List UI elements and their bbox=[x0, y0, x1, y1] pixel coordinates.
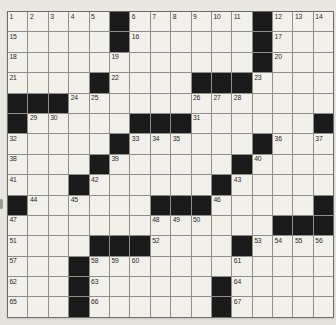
grid-cell[interactable]: 18 bbox=[8, 53, 27, 72]
grid-cell[interactable] bbox=[28, 216, 47, 235]
grid-cell[interactable]: 31 bbox=[192, 114, 211, 133]
grid-cell[interactable] bbox=[130, 73, 149, 92]
grid-cell[interactable]: 43 bbox=[232, 175, 251, 194]
grid-cell[interactable]: 55 bbox=[293, 236, 312, 255]
grid-cell[interactable]: 65 bbox=[8, 297, 27, 316]
grid-cell[interactable] bbox=[192, 175, 211, 194]
grid-cell[interactable] bbox=[273, 114, 292, 133]
grid-cell[interactable]: 4 bbox=[69, 12, 88, 31]
grid-cell[interactable] bbox=[253, 277, 272, 296]
grid-cell[interactable] bbox=[151, 94, 170, 113]
grid-cell[interactable]: 14 bbox=[314, 12, 333, 31]
grid-cell[interactable]: 22 bbox=[110, 73, 129, 92]
grid-cell[interactable] bbox=[49, 134, 68, 153]
grid-cell[interactable] bbox=[192, 297, 211, 316]
grid-cell[interactable] bbox=[273, 196, 292, 215]
grid-cell[interactable] bbox=[49, 216, 68, 235]
grid-cell[interactable]: 5 bbox=[90, 12, 109, 31]
grid-cell[interactable]: 24 bbox=[69, 94, 88, 113]
grid-cell[interactable] bbox=[69, 236, 88, 255]
grid-cell[interactable] bbox=[151, 155, 170, 174]
grid-cell[interactable]: 20 bbox=[273, 53, 292, 72]
grid-cell[interactable]: 33 bbox=[130, 134, 149, 153]
grid-cell[interactable] bbox=[28, 297, 47, 316]
grid-cell[interactable] bbox=[192, 32, 211, 51]
grid-cell[interactable]: 21 bbox=[8, 73, 27, 92]
grid-cell[interactable] bbox=[171, 297, 190, 316]
grid-cell[interactable] bbox=[171, 236, 190, 255]
grid-cell[interactable] bbox=[314, 155, 333, 174]
grid-cell[interactable] bbox=[110, 216, 129, 235]
grid-cell[interactable] bbox=[90, 196, 109, 215]
grid-cell[interactable] bbox=[253, 297, 272, 316]
grid-cell[interactable] bbox=[151, 297, 170, 316]
grid-cell[interactable] bbox=[151, 73, 170, 92]
grid-cell[interactable] bbox=[69, 155, 88, 174]
grid-cell[interactable]: 17 bbox=[273, 32, 292, 51]
grid-cell[interactable] bbox=[314, 94, 333, 113]
grid-cell[interactable] bbox=[110, 175, 129, 194]
grid-cell[interactable]: 61 bbox=[232, 257, 251, 276]
grid-cell[interactable]: 41 bbox=[8, 175, 27, 194]
grid-cell[interactable]: 64 bbox=[232, 277, 251, 296]
grid-cell[interactable] bbox=[314, 73, 333, 92]
grid-cell[interactable] bbox=[273, 155, 292, 174]
grid-cell[interactable] bbox=[192, 134, 211, 153]
grid-cell[interactable] bbox=[130, 94, 149, 113]
grid-cell[interactable] bbox=[232, 114, 251, 133]
grid-cell[interactable] bbox=[151, 277, 170, 296]
grid-cell[interactable] bbox=[49, 155, 68, 174]
grid-cell[interactable]: 19 bbox=[110, 53, 129, 72]
grid-cell[interactable] bbox=[130, 175, 149, 194]
grid-cell[interactable] bbox=[192, 257, 211, 276]
grid-cell[interactable]: 62 bbox=[8, 277, 27, 296]
grid-cell[interactable] bbox=[110, 196, 129, 215]
grid-cell[interactable]: 11 bbox=[232, 12, 251, 31]
grid-cell[interactable] bbox=[314, 175, 333, 194]
grid-cell[interactable]: 60 bbox=[130, 257, 149, 276]
grid-cell[interactable]: 36 bbox=[273, 134, 292, 153]
grid-cell[interactable]: 2 bbox=[28, 12, 47, 31]
grid-cell[interactable]: 6 bbox=[130, 12, 149, 31]
grid-cell[interactable] bbox=[253, 196, 272, 215]
grid-cell[interactable]: 45 bbox=[69, 196, 88, 215]
grid-cell[interactable]: 50 bbox=[192, 216, 211, 235]
grid-cell[interactable] bbox=[293, 175, 312, 194]
grid-cell[interactable] bbox=[212, 236, 231, 255]
grid-cell[interactable]: 39 bbox=[110, 155, 129, 174]
grid-cell[interactable] bbox=[314, 257, 333, 276]
grid-cell[interactable]: 63 bbox=[90, 277, 109, 296]
grid-cell[interactable] bbox=[90, 32, 109, 51]
grid-cell[interactable] bbox=[293, 134, 312, 153]
grid-cell[interactable] bbox=[232, 134, 251, 153]
grid-cell[interactable] bbox=[28, 257, 47, 276]
grid-cell[interactable] bbox=[130, 53, 149, 72]
grid-cell[interactable] bbox=[151, 175, 170, 194]
grid-cell[interactable] bbox=[130, 277, 149, 296]
grid-cell[interactable] bbox=[273, 175, 292, 194]
grid-cell[interactable] bbox=[273, 73, 292, 92]
grid-cell[interactable] bbox=[293, 155, 312, 174]
grid-cell[interactable]: 34 bbox=[151, 134, 170, 153]
grid-cell[interactable] bbox=[192, 236, 211, 255]
grid-cell[interactable]: 53 bbox=[253, 236, 272, 255]
grid-cell[interactable] bbox=[232, 53, 251, 72]
grid-cell[interactable] bbox=[171, 53, 190, 72]
grid-cell[interactable] bbox=[69, 134, 88, 153]
grid-cell[interactable]: 12 bbox=[273, 12, 292, 31]
grid-cell[interactable] bbox=[110, 277, 129, 296]
grid-cell[interactable] bbox=[293, 257, 312, 276]
grid-cell[interactable]: 32 bbox=[8, 134, 27, 153]
grid-cell[interactable]: 54 bbox=[273, 236, 292, 255]
grid-cell[interactable] bbox=[90, 114, 109, 133]
grid-cell[interactable] bbox=[171, 73, 190, 92]
grid-cell[interactable]: 9 bbox=[192, 12, 211, 31]
grid-cell[interactable]: 38 bbox=[8, 155, 27, 174]
grid-cell[interactable] bbox=[130, 216, 149, 235]
grid-cell[interactable] bbox=[253, 114, 272, 133]
grid-cell[interactable] bbox=[49, 277, 68, 296]
grid-cell[interactable] bbox=[49, 53, 68, 72]
grid-cell[interactable] bbox=[273, 94, 292, 113]
grid-cell[interactable] bbox=[314, 32, 333, 51]
grid-cell[interactable]: 15 bbox=[8, 32, 27, 51]
